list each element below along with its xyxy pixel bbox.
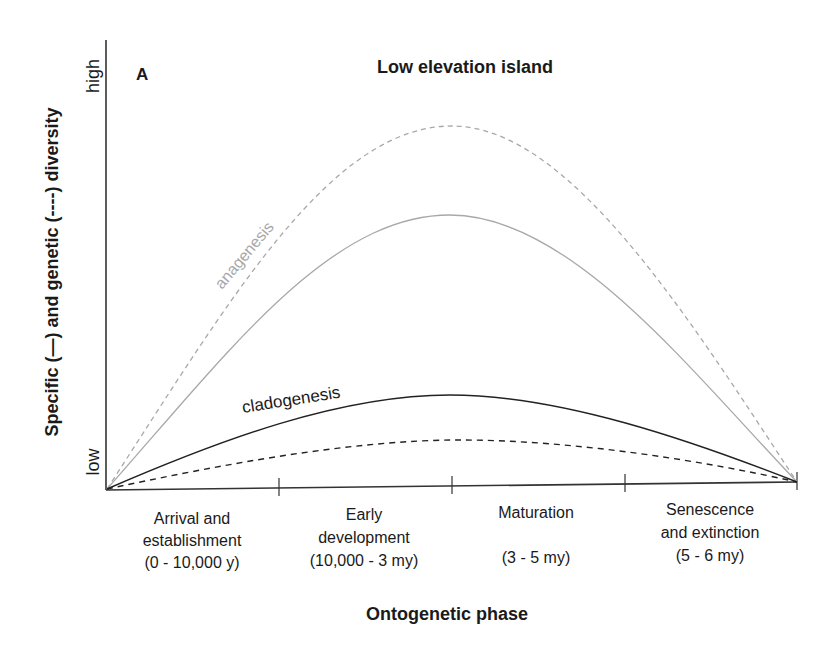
category-arrival: Arrival and establishment (0 - 10,000 y): [143, 510, 242, 571]
svg-text:Senescence: Senescence: [666, 501, 754, 518]
panel-label: A: [136, 65, 148, 84]
category-early-development: Early development (10,000 - 3 my): [310, 506, 418, 569]
y-tick-high: high: [83, 59, 103, 93]
svg-text:Early: Early: [346, 506, 382, 523]
svg-text:Arrival and: Arrival and: [154, 510, 230, 527]
y-axis-title: Specific (—) and genetic (----) diversit…: [42, 107, 62, 436]
svg-text:and extinction: and extinction: [661, 524, 760, 541]
cladogenesis-label: cladogenesis: [241, 383, 342, 417]
y-tick-low: low: [83, 447, 103, 475]
x-axis-title: Ontogenetic phase: [366, 604, 528, 624]
svg-text:(10,000 - 3 my): (10,000 - 3 my): [310, 552, 418, 569]
svg-text:establishment: establishment: [143, 532, 242, 549]
svg-text:Maturation: Maturation: [498, 504, 574, 521]
svg-text:(0 - 10,000 y): (0 - 10,000 y): [144, 554, 239, 571]
anagenesis-specific-curve: [107, 215, 797, 489]
svg-text:development: development: [318, 529, 410, 546]
chart-canvas: A Low elevation island Specific (—) and …: [0, 0, 839, 656]
anagenesis-genetic-curve: [107, 126, 797, 489]
svg-text:(5 - 6 my): (5 - 6 my): [676, 547, 744, 564]
cladogenesis-specific-curve: [107, 395, 797, 489]
category-maturation: Maturation (3 - 5 my): [498, 504, 574, 566]
category-senescence: Senescence and extinction (5 - 6 my): [661, 501, 760, 564]
chart-title: Low elevation island: [377, 57, 553, 77]
svg-text:(3 - 5 my): (3 - 5 my): [502, 549, 570, 566]
anagenesis-label: anagenesis: [211, 218, 277, 292]
